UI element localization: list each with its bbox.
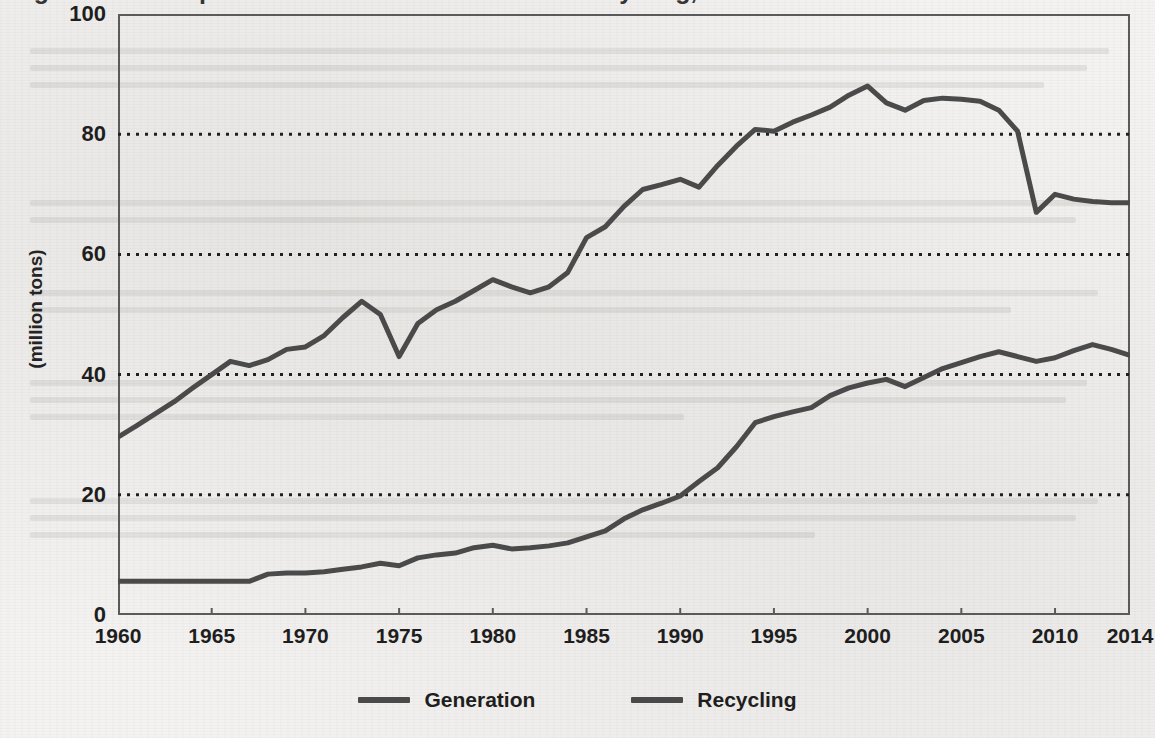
x-axis-tick-labels: 1960196519701975198019851990199520002005… — [0, 624, 1155, 654]
y-tick-label-40: 40 — [36, 362, 106, 388]
y-tick-label-80: 80 — [36, 121, 106, 147]
y-tick-label-20: 20 — [36, 482, 106, 508]
y-tick-label-100: 100 — [36, 1, 106, 27]
x-tick-label-1985: 1985 — [563, 624, 610, 648]
series-line-generation — [118, 86, 1130, 437]
chart-legend: Generation Recycling — [0, 688, 1155, 712]
x-tick-label-2014: 2014 — [1107, 624, 1154, 648]
series-line-recycling — [118, 345, 1130, 582]
x-tick-label-1970: 1970 — [282, 624, 329, 648]
chart-figure: Figure 1. Municipal Solid Waste Generati… — [0, 0, 1155, 738]
legend-item-generation[interactable]: Generation — [358, 688, 535, 712]
x-tick-label-2010: 2010 — [1032, 624, 1079, 648]
plot-area — [118, 14, 1130, 615]
x-tick-label-1965: 1965 — [188, 624, 235, 648]
legend-label-generation: Generation — [424, 688, 535, 712]
legend-label-recycling: Recycling — [697, 688, 796, 712]
legend-item-recycling[interactable]: Recycling — [631, 688, 796, 712]
x-tick-label-1980: 1980 — [469, 624, 516, 648]
chart-title: Figure 1. Municipal Solid Waste Generati… — [12, 0, 850, 5]
x-tick-label-1975: 1975 — [376, 624, 423, 648]
x-tick-label-1990: 1990 — [657, 624, 704, 648]
y-tick-label-60: 60 — [36, 241, 106, 267]
x-tick-label-1960: 1960 — [95, 624, 142, 648]
legend-line-swatch-recycling — [631, 697, 683, 703]
x-tick-label-1995: 1995 — [751, 624, 798, 648]
x-tick-label-2005: 2005 — [938, 624, 985, 648]
x-tick-label-2000: 2000 — [844, 624, 891, 648]
legend-line-swatch-generation — [358, 697, 410, 703]
